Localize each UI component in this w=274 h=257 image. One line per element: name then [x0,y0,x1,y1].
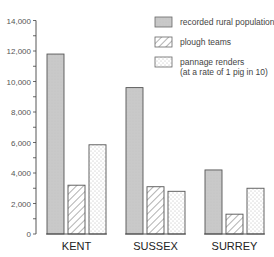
category-labels: KENTSUSSEXSURREY [62,240,258,252]
legend-label: recorded rural population [180,17,274,27]
legend-label: plough teams [180,37,231,47]
bar-sussex-0 [126,88,143,234]
y-tick-label: 0 [27,230,32,239]
bar-kent-0 [47,54,64,234]
y-axis: 02,0004,0006,0008,00010,00012,00014,000 [7,17,36,240]
bar-group-sussex [126,88,185,234]
legend-swatch [155,57,172,67]
legend-label: pannage renders [180,57,244,67]
legend: recorded rural populationplough teamspan… [155,17,274,77]
legend-item-1: plough teams [155,37,231,47]
bar-sussex-1 [147,187,164,234]
y-tick-label: 10,000 [7,78,32,87]
y-tick-label: 6,000 [11,139,32,148]
bar-sussex-2 [168,191,185,234]
legend-item-2: pannage renders(at a rate of 1 pig in 10… [155,57,268,77]
legend-label: (at a rate of 1 pig in 10) [180,67,268,77]
bar-surrey-1 [226,214,243,234]
y-tick-label: 8,000 [11,108,32,117]
legend-swatch [155,37,172,47]
legend-swatch [155,17,172,27]
bar-chart: 02,0004,0006,0008,00010,00012,00014,000 … [0,0,274,257]
legend-item-0: recorded rural population [155,17,274,27]
bars [46,54,265,234]
bar-kent-2 [89,145,106,234]
y-tick-label: 4,000 [11,169,32,178]
category-label: KENT [62,240,92,252]
bar-surrey-0 [205,170,222,234]
bar-group-surrey [205,170,264,234]
category-label: SUSSEX [133,240,178,252]
y-tick-label: 2,000 [11,200,32,209]
bar-kent-1 [68,185,85,234]
bar-surrey-2 [247,188,264,234]
y-tick-label: 14,000 [7,17,32,26]
bar-group-kent [47,54,106,234]
y-tick-label: 12,000 [7,47,32,56]
category-label: SURREY [212,240,259,252]
